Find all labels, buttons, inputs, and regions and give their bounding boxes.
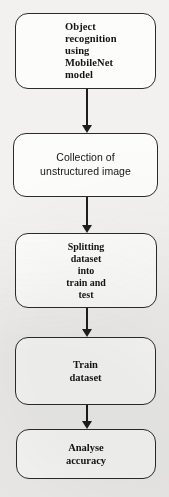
- flowchart-node-collection-of-unstructured-image: Collection of unstructured image: [13, 133, 158, 197]
- flowchart-connector-arrow-down: [82, 197, 92, 233]
- connector-stem: [86, 197, 88, 226]
- flowchart-node-splitting-dataset: Splitting dataset into train and test: [15, 233, 157, 308]
- flowchart-node-label: Train dataset: [69, 358, 101, 385]
- arrow-head-icon: [82, 329, 92, 337]
- flowchart-connector-arrow-down: [82, 308, 92, 337]
- flowchart-node-label: Collection of unstructured image: [40, 151, 131, 179]
- arrow-head-icon: [82, 125, 92, 133]
- flowchart-node-label: Splitting dataset into train and test: [66, 241, 106, 301]
- flowchart-diagram: Object recognition using MobileNet model…: [0, 0, 169, 497]
- arrow-head-icon: [82, 225, 92, 233]
- flowchart-node-label: Object recognition using MobileNet model: [16, 21, 117, 82]
- connector-stem: [86, 405, 88, 422]
- flowchart-node-analyse-accuracy: Analyse accuracy: [16, 429, 156, 479]
- connector-stem: [86, 89, 88, 126]
- connector-stem: [86, 308, 88, 330]
- flowchart-node-train-dataset: Train dataset: [15, 337, 156, 405]
- arrow-head-icon: [82, 421, 92, 429]
- flowchart-node-label: Analyse accuracy: [66, 441, 106, 468]
- flowchart-node-object-recognition: Object recognition using MobileNet model: [15, 13, 156, 89]
- flowchart-connector-arrow-down: [82, 405, 92, 429]
- flowchart-connector-arrow-down: [82, 89, 92, 133]
